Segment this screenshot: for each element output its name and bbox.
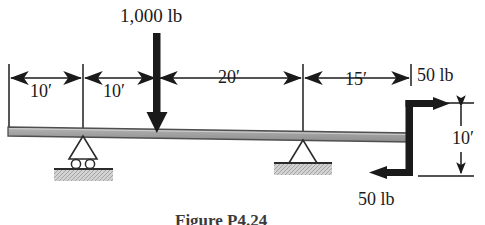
- support-left-roller: [54, 136, 113, 181]
- force-label-bottom-50lb: 50 lb: [358, 190, 395, 208]
- roller-wheel-right: [85, 159, 94, 168]
- bracket-top-arm: [406, 100, 435, 107]
- pin-ground-hatch: [274, 164, 332, 175]
- force-label-top-50lb: 50 lb: [417, 66, 454, 84]
- diagram-canvas: [0, 0, 485, 225]
- dimension-label-10ft-b: 10′: [103, 82, 125, 100]
- support-right-pin: [274, 140, 332, 175]
- dimension-label-10ft-vertical: 10′: [452, 129, 474, 147]
- bracket-bottom-arm: [386, 169, 413, 176]
- pin-triangle: [289, 140, 317, 163]
- dimension-label-20ft: 20′: [218, 68, 240, 86]
- bracket-vertical-post: [406, 100, 414, 176]
- point-load-arrow-1000lb: [147, 33, 168, 133]
- load-arrow-shaft: [153, 33, 161, 119]
- roller-ground-hatch: [54, 170, 113, 181]
- dimension-label-15ft: 15′: [345, 70, 367, 88]
- force-arrowhead-bottom-left: [369, 166, 387, 179]
- dimension-label-10ft-a: 10′: [30, 82, 52, 100]
- roller-triangle: [69, 136, 97, 159]
- beam: [8, 127, 411, 142]
- figure-caption: Figure P4.24: [175, 212, 267, 225]
- roller-wheel-left: [71, 159, 80, 168]
- beam-diagram-figure: 1,000 lb 10′ 10′ 20′ 15′ 10′ 50 lb 50 lb…: [0, 0, 485, 225]
- point-load-label: 1,000 lb: [120, 6, 182, 25]
